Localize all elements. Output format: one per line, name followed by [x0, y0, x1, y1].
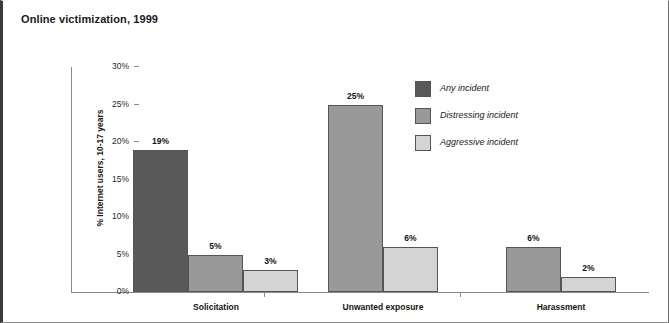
plot-area: 30%25%20%15%10%5%0% % Internet users, 10…	[71, 67, 649, 292]
legend-label: Distressing incident	[440, 110, 518, 120]
y-axis-tick-label: 0%	[71, 286, 129, 296]
bar-value-label: 6%	[383, 233, 438, 243]
y-axis-tick-label: 30%	[71, 61, 129, 71]
y-axis-title: % Internet users, 10-17 years	[95, 73, 105, 263]
y-axis-tick-mark	[134, 66, 139, 67]
chart-figure: Online victimization, 1999 30%25%20%15%1…	[0, 0, 669, 323]
legend-label: Any incident	[440, 83, 489, 93]
bar-value-label: 3%	[243, 256, 298, 266]
x-axis-group-separator	[264, 292, 265, 297]
bar	[243, 270, 298, 293]
legend-swatch	[415, 135, 431, 151]
y-axis-tick-mark	[134, 104, 139, 105]
bar-value-label: 25%	[328, 91, 383, 101]
bar	[328, 105, 383, 293]
bar-value-label: 19%	[133, 136, 188, 146]
bar	[383, 247, 438, 292]
bar-value-label: 6%	[506, 233, 561, 243]
x-axis-group-label: Unwanted exposure	[313, 302, 453, 312]
page-title: Online victimization, 1999	[21, 13, 158, 25]
bar	[561, 277, 616, 292]
bar-value-label: 2%	[561, 263, 616, 273]
bar-value-label: 5%	[188, 241, 243, 251]
x-axis-group-label: Harassment	[491, 302, 631, 312]
bar	[506, 247, 561, 292]
x-axis-line	[71, 292, 649, 293]
bar	[133, 150, 188, 293]
bar	[188, 255, 243, 293]
legend-swatch	[415, 108, 431, 124]
x-axis-group-label: Solicitation	[146, 302, 286, 312]
x-axis-group-separator	[460, 292, 461, 297]
legend-label: Aggressive incident	[440, 137, 518, 147]
legend-swatch	[415, 81, 431, 97]
